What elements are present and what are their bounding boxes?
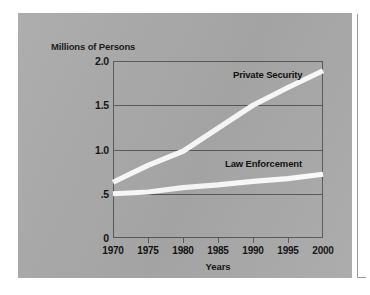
- page-column-rule-foot: [357, 277, 366, 278]
- x-axis-tick-mark: [218, 238, 219, 243]
- series-label-law-enforcement: Law Enforcement: [225, 158, 302, 169]
- y-axis-tick-labels: 2.01.51.0.50: [61, 61, 109, 238]
- x-axis-tick-label: 1980: [172, 245, 193, 256]
- x-axis-tick-label: 1970: [102, 245, 123, 256]
- figure-panel: Millions of Persons 2.01.51.0.50 Private…: [18, 13, 352, 278]
- x-axis-tick-mark: [183, 238, 184, 243]
- y-axis-tick-label: 1.0: [65, 144, 109, 156]
- y-axis-tick-label: 0: [65, 232, 109, 244]
- series-line-law-enforcement: [113, 174, 323, 193]
- y-axis-tick-label: .5: [65, 188, 109, 200]
- y-axis-tick-label: 1.5: [65, 99, 109, 111]
- series-label-private-security: Private Security: [233, 69, 302, 80]
- page-column-rule: [357, 14, 358, 278]
- x-axis-tick-mark: [148, 238, 149, 243]
- x-axis-tick-mark: [288, 238, 289, 243]
- x-axis-tick-label: 1975: [137, 245, 158, 256]
- y-axis-tick-label: 2.0: [65, 55, 109, 67]
- x-axis-tick-label: 2000: [312, 245, 333, 256]
- series-lines: [113, 61, 323, 238]
- x-axis-tick-label: 1990: [242, 245, 263, 256]
- y-axis-title: Millions of Persons: [51, 41, 135, 52]
- x-axis-tick-label: 1985: [207, 245, 228, 256]
- plot-area: Private Security Law Enforcement: [113, 61, 323, 238]
- x-axis-tick-mark: [253, 238, 254, 243]
- x-axis-tick-label: 1995: [277, 245, 298, 256]
- x-axis-title: Years: [113, 261, 323, 272]
